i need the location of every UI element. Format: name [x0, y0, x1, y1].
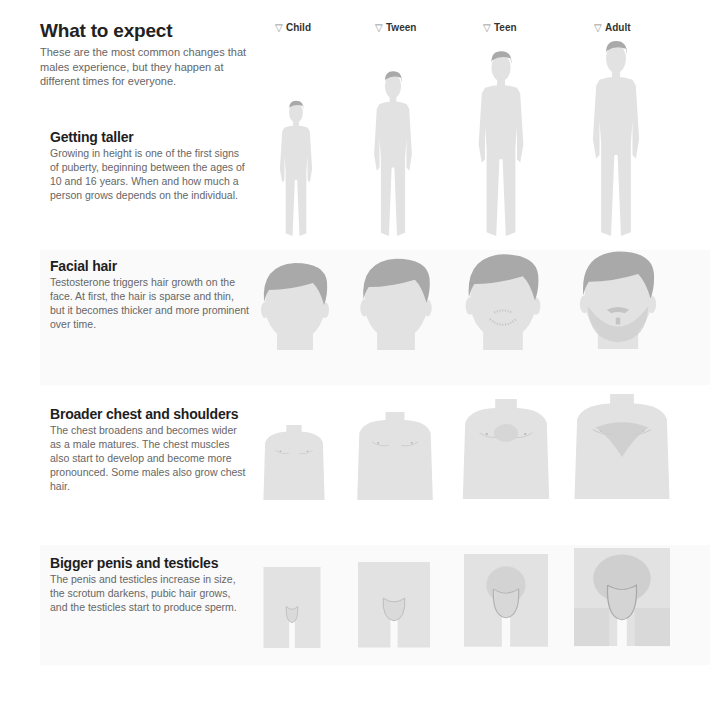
teen-body [479, 51, 524, 236]
stage-header-adult: ▽Adult [594, 22, 631, 33]
section-title: Bigger penis and testicles [50, 555, 250, 571]
intro-description: These are the most common changes that m… [40, 45, 250, 89]
adult-body [593, 41, 639, 236]
section-title: Facial hair [50, 258, 250, 274]
triangle-down-outline-icon: ▽ [275, 22, 283, 33]
section-genital-growth: Bigger penis and testicles The penis and… [50, 555, 250, 614]
tween-groin [358, 562, 430, 648]
triangle-down-outline-icon: ▽ [375, 22, 383, 33]
section-text: Testosterone triggers hair growth on the… [50, 275, 250, 331]
section-facial-hair: Facial hair Testosterone triggers hair g… [50, 258, 250, 331]
teen-groin [464, 554, 548, 647]
child-head [261, 263, 329, 350]
section-getting-taller: Getting taller Growing in height is one … [50, 129, 250, 202]
teen-torso [463, 399, 549, 499]
adult-torso [574, 394, 669, 499]
facial-hair-illustrations [250, 250, 710, 370]
child-body [280, 101, 312, 236]
section-title: Broader chest and shoulders [50, 406, 250, 422]
section-title: Getting taller [50, 129, 250, 145]
tween-body [374, 71, 412, 236]
body-height-illustrations [250, 40, 710, 240]
chest-illustrations [250, 390, 710, 515]
adult-groin [574, 548, 670, 646]
adult-head [580, 252, 656, 349]
teen-head [466, 254, 541, 350]
child-torso [263, 425, 324, 500]
intro: What to expect These are the most common… [40, 20, 250, 89]
child-groin [264, 567, 321, 648]
stage-header-teen: ▽Teen [483, 22, 517, 33]
tween-head [360, 259, 431, 350]
section-text: The penis and testicles increase in size… [50, 572, 250, 614]
section-chest-shoulders: Broader chest and shoulders The chest br… [50, 406, 250, 493]
tween-torso [357, 412, 433, 500]
section-text: Growing in height is one of the first si… [50, 146, 250, 202]
stage-header-tween: ▽Tween [375, 22, 416, 33]
stage-header-child: ▽Child [275, 22, 311, 33]
triangle-down-outline-icon: ▽ [594, 22, 602, 33]
section-text: The chest broadens and becomes wider as … [50, 423, 250, 493]
genital-illustrations [250, 545, 710, 660]
page-title: What to expect [40, 20, 250, 42]
triangle-down-outline-icon: ▽ [483, 22, 491, 33]
